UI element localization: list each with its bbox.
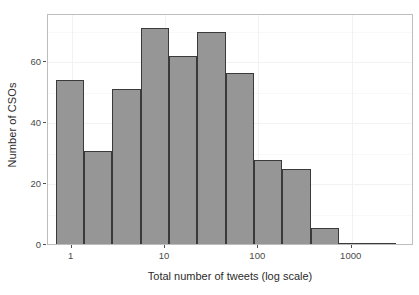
x-axis-title: Total number of tweets (log scale) <box>47 270 413 282</box>
histogram-bar <box>367 243 395 245</box>
histogram-bar <box>141 28 169 245</box>
y-tick-label-40: 40 <box>1 117 41 128</box>
histogram-bar <box>226 73 254 245</box>
x-tick-mark-1000 <box>351 245 352 248</box>
x-tick-label-1: 1 <box>68 250 73 261</box>
x-tick-mark-10 <box>164 245 165 248</box>
y-tick-mark-40 <box>43 122 46 123</box>
x-tick-mark-1 <box>71 245 72 248</box>
histogram-bar <box>254 160 282 245</box>
histogram-bar <box>112 89 140 245</box>
gridline-x-1000 <box>352 15 353 244</box>
x-tick-label-1000: 1000 <box>340 250 361 261</box>
histogram-figure: Number of CSOs 0 20 40 60 <box>0 0 419 295</box>
histogram-bar <box>197 32 225 246</box>
plot-panel <box>47 14 413 245</box>
x-tick-mark-100 <box>257 245 258 248</box>
y-tick-label-20: 20 <box>1 178 41 189</box>
y-tick-mark-0 <box>43 244 46 245</box>
gridline-y-60 <box>48 62 412 63</box>
gridline-y-70 <box>48 32 412 33</box>
y-tick-mark-20 <box>43 183 46 184</box>
x-tick-label-10: 10 <box>159 250 170 261</box>
histogram-bar <box>169 56 197 245</box>
histogram-bar <box>282 169 310 245</box>
histogram-bar <box>311 228 339 245</box>
y-tick-mark-60 <box>43 61 46 62</box>
histogram-bar <box>56 80 84 245</box>
histogram-bar <box>339 243 367 245</box>
y-tick-label-60: 60 <box>1 56 41 67</box>
y-tick-label-0: 0 <box>1 239 41 250</box>
x-tick-label-100: 100 <box>249 250 265 261</box>
histogram-bar <box>84 151 112 246</box>
